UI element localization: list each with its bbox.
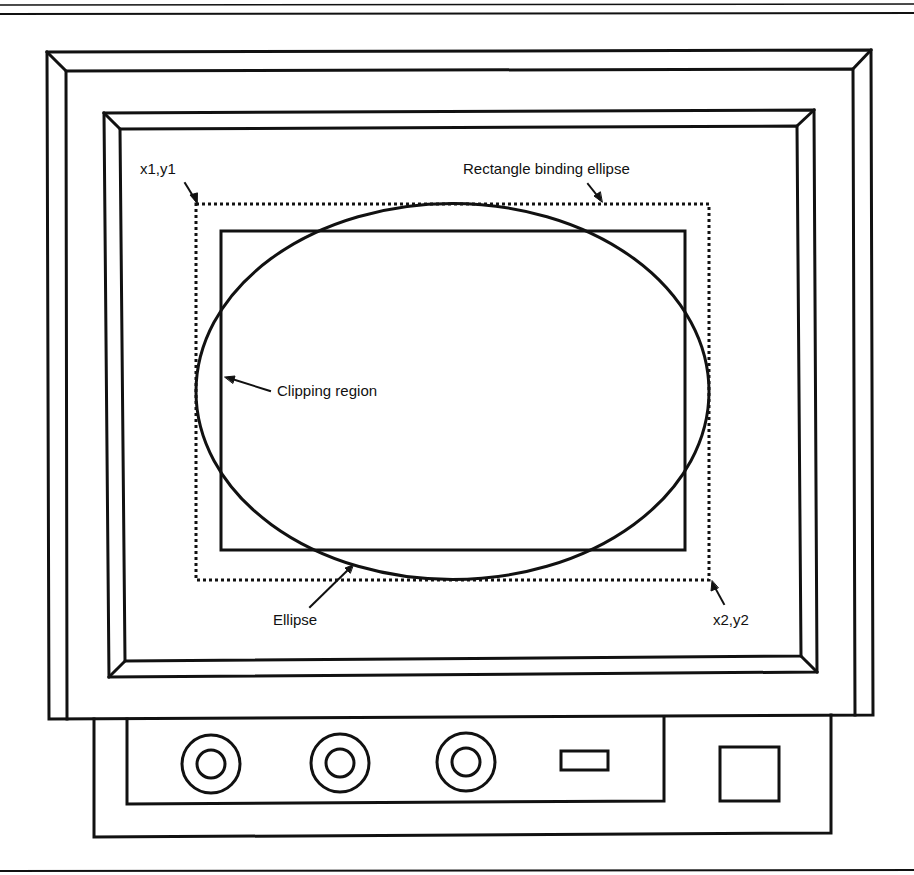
arrow-bounding-rect-icon bbox=[588, 184, 602, 202]
top-rules bbox=[0, 4, 914, 14]
arrow-x2y2-icon bbox=[711, 581, 724, 604]
diagram-canvas bbox=[0, 0, 914, 875]
ellipse-shape bbox=[196, 204, 709, 580]
monitor-casing bbox=[47, 50, 873, 719]
slot-indicator bbox=[561, 751, 608, 770]
label-x1y1: x1,y1 bbox=[140, 161, 176, 176]
arrow-ellipse-icon bbox=[310, 565, 353, 607]
bottom-rule bbox=[0, 870, 914, 871]
label-bounding-rect: Rectangle binding ellipse bbox=[463, 161, 630, 176]
power-button[interactable] bbox=[720, 747, 779, 801]
knob-1[interactable] bbox=[182, 735, 240, 793]
annotation-arrows bbox=[185, 183, 724, 607]
label-clipping-region: Clipping region bbox=[277, 383, 377, 398]
monitor-diagram: x1,y1 Rectangle binding ellipse Clipping… bbox=[0, 0, 914, 875]
control-panel bbox=[127, 717, 664, 804]
knob-2[interactable] bbox=[311, 734, 369, 792]
label-ellipse: Ellipse bbox=[273, 612, 317, 627]
knob-3[interactable] bbox=[437, 733, 495, 791]
arrow-clipping-region-icon bbox=[225, 376, 270, 391]
arrow-x1y1-icon bbox=[185, 183, 197, 203]
label-x2y2: x2,y2 bbox=[713, 612, 749, 627]
bounding-rect bbox=[196, 204, 709, 580]
